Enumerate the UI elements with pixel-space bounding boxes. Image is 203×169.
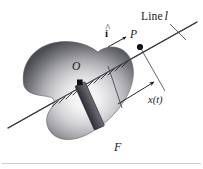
extension-line-p (140, 47, 165, 91)
point-p-label: P (130, 29, 137, 41)
coordinate-xt-label: x(t) (148, 95, 163, 106)
origin-o-label: O (72, 61, 80, 73)
unit-vector-label: ^i (105, 28, 108, 39)
line-l-label-symbol: l (163, 9, 168, 23)
figure-canvas: Linel ^i P O x(t) F (0, 0, 203, 169)
reference-frame-label: F (114, 141, 121, 153)
line-label-leader (170, 24, 186, 40)
line-l-label-word: Line (141, 10, 163, 22)
origin-marker-o (77, 80, 83, 86)
unit-vector-hat-accent: ^ (106, 23, 111, 33)
unit-vector-arrow (108, 37, 126, 47)
diagram-svg (0, 0, 203, 169)
line-l-label: Linel (141, 10, 168, 23)
